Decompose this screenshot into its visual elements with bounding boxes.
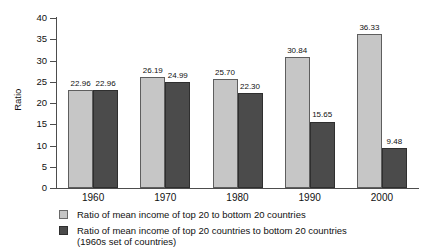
legend-item: Ratio of mean income of top 20 to bottom… xyxy=(59,209,429,221)
y-axis-tick-label: 25 xyxy=(7,77,47,87)
chart-legend: Ratio of mean income of top 20 to bottom… xyxy=(59,209,429,251)
y-axis-tick-label: 15 xyxy=(7,119,47,129)
bar-value-label: 22.96 xyxy=(67,80,95,88)
y-axis-tick-label: 35 xyxy=(7,34,47,44)
bar-value-label: 26.19 xyxy=(139,67,167,75)
bar xyxy=(357,34,382,188)
x-axis-tick-label: 1990 xyxy=(274,192,346,203)
y-axis-tick xyxy=(50,167,57,168)
bar-value-label: 9.48 xyxy=(380,138,408,146)
x-axis-tick-label: 1960 xyxy=(57,192,129,203)
bar xyxy=(238,93,263,188)
bar xyxy=(382,148,407,188)
y-axis-tick xyxy=(50,188,57,189)
bar xyxy=(93,90,118,188)
bar xyxy=(310,122,335,189)
bar xyxy=(165,82,190,188)
y-axis-tick xyxy=(50,103,57,104)
legend-swatch-icon xyxy=(59,210,68,219)
y-axis-tick-label: 5 xyxy=(7,162,47,172)
y-axis-tick xyxy=(50,39,57,40)
x-axis-tick-label: 1980 xyxy=(201,192,273,203)
bar-value-label: 15.65 xyxy=(308,111,336,119)
legend-item-sublabel: (1960s set of countries) xyxy=(77,236,347,248)
legend-item-label: Ratio of mean income of top 20 to bottom… xyxy=(77,209,306,221)
x-axis-tick-label: 2000 xyxy=(346,192,418,203)
y-axis-tick-label: 0 xyxy=(7,183,47,193)
legend-item-label: Ratio of mean income of top 20 countries… xyxy=(77,225,347,248)
legend-item: Ratio of mean income of top 20 countries… xyxy=(59,225,429,248)
bar-value-label: 24.99 xyxy=(164,72,192,80)
bar-value-label: 22.96 xyxy=(92,80,120,88)
bar xyxy=(140,77,165,188)
bar xyxy=(68,90,93,188)
bar-value-label: 25.70 xyxy=(211,69,239,77)
bar-value-label: 30.84 xyxy=(283,47,311,55)
legend-swatch-icon xyxy=(59,226,68,235)
y-axis-tick-label: 30 xyxy=(7,56,47,66)
y-axis-tick xyxy=(50,61,57,62)
y-axis-tick-label: 20 xyxy=(7,98,47,108)
plot-area: 22.9622.9626.1924.9925.7022.3030.8415.65… xyxy=(57,18,418,188)
x-axis-line xyxy=(56,188,419,189)
bar xyxy=(285,57,310,188)
y-axis-tick xyxy=(50,146,57,147)
bar-value-label: 22.30 xyxy=(236,83,264,91)
y-axis-tick-label: 40 xyxy=(7,13,47,23)
y-axis-tick xyxy=(50,18,57,19)
bar xyxy=(213,79,238,188)
bar-value-label: 36.33 xyxy=(355,24,383,32)
bar-chart-figure: Ratio 0510152025303540 22.9622.9626.1924… xyxy=(0,0,440,251)
y-axis-tick xyxy=(50,82,57,83)
y-axis-tick xyxy=(50,124,57,125)
x-axis-tick-label: 1970 xyxy=(129,192,201,203)
y-axis-tick-label: 10 xyxy=(7,141,47,151)
